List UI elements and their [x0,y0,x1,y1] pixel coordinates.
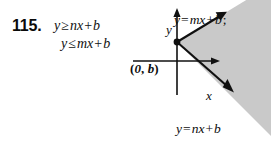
upper-eq-constant: b [215,12,222,27]
lower-eq-constant: b [214,121,221,136]
upper-eq-term: mx [190,12,206,27]
inequality-1-operator: + [83,18,93,33]
upper-eq-punctuation: ; [222,12,228,27]
inequality-1-relation: ≥ [60,18,70,33]
lower-eq-term: nx [192,121,205,136]
exercise-number: 115. [12,17,41,35]
coordinate-diagram: y x (0, b) y=mx+b; y=nx+b [128,0,271,144]
figure-container: 115. y≥nx+b y≤mx+b [0,0,271,144]
y-axis-label: y [166,22,172,38]
upper-line-equation-label: y=mx+b; [174,12,228,28]
x-axis-label: x [206,88,212,104]
upper-eq-operator: + [205,12,215,27]
inequality-2-operator: + [93,36,103,51]
inequality-2-constant: b [103,36,110,51]
vertex-point-dot [174,39,181,46]
vertex-label-comma: , [141,61,148,76]
inequality-2-term: mx [77,36,93,51]
vertex-label-close-paren: ) [154,61,158,76]
lower-eq-equals: = [182,121,192,136]
lower-line-equation-label: y=nx+b [176,121,223,137]
vertex-point-label: (0, b) [130,61,159,77]
inequality-2-relation: ≤ [67,36,77,51]
inequality-1-term: nx [70,18,83,33]
lower-eq-punctuation [221,121,223,136]
inequality-1-constant: b [93,18,100,33]
upper-eq-equals: = [180,12,190,27]
lower-eq-operator: + [204,121,214,136]
